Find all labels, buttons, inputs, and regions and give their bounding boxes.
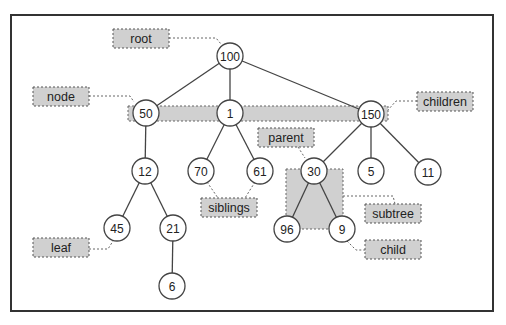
node-value: 70 <box>194 165 208 179</box>
node-value: 61 <box>253 165 267 179</box>
node-value: 1 <box>227 107 234 121</box>
tree-node-12: 12 <box>132 158 158 184</box>
tree-diagram: 1005011501270613051145219696 rootnodechi… <box>0 0 506 325</box>
label-leaf: leaf <box>33 238 89 257</box>
label-node: node <box>33 87 89 106</box>
label-siblings: siblings <box>201 198 257 217</box>
node-value: 12 <box>138 165 152 179</box>
tree-node-50: 50 <box>133 100 159 126</box>
tree-node-11: 11 <box>415 159 441 185</box>
label-root: root <box>113 29 169 48</box>
node-value: 100 <box>220 50 240 64</box>
label-text: children <box>423 95 467 109</box>
tree-node-1: 1 <box>217 100 243 126</box>
node-value: 30 <box>307 165 321 179</box>
label-text: siblings <box>208 201 250 215</box>
node-value: 6 <box>169 280 176 294</box>
tree-node-100: 100 <box>217 43 243 69</box>
node-value: 9 <box>339 223 346 237</box>
label-text: subtree <box>372 207 414 221</box>
label-subtree: subtree <box>365 204 421 223</box>
node-value: 45 <box>110 222 124 236</box>
tree-node-30: 30 <box>301 158 327 184</box>
tree-node-96: 96 <box>274 216 300 242</box>
label-text: child <box>380 243 406 257</box>
node-value: 96 <box>280 223 294 237</box>
tree-node-6: 6 <box>159 273 185 299</box>
node-value: 11 <box>422 166 435 180</box>
label-text: root <box>130 32 152 46</box>
node-value: 150 <box>361 108 381 122</box>
label-text: leaf <box>51 241 72 255</box>
label-text: node <box>47 90 75 104</box>
node-value: 5 <box>368 165 375 179</box>
tree-node-5: 5 <box>358 158 384 184</box>
label-text: parent <box>268 131 304 145</box>
tree-node-21: 21 <box>160 215 186 241</box>
tree-node-45: 45 <box>104 215 130 241</box>
label-children: children <box>417 92 473 111</box>
node-value: 21 <box>166 222 180 236</box>
tree-node-70: 70 <box>188 158 214 184</box>
tree-node-61: 61 <box>247 158 273 184</box>
node-value: 50 <box>139 107 153 121</box>
children-highlight-band <box>128 106 388 121</box>
label-parent: parent <box>258 128 314 147</box>
tree-node-9: 9 <box>329 216 355 242</box>
label-child: child <box>365 240 421 259</box>
tree-node-150: 150 <box>358 101 384 127</box>
